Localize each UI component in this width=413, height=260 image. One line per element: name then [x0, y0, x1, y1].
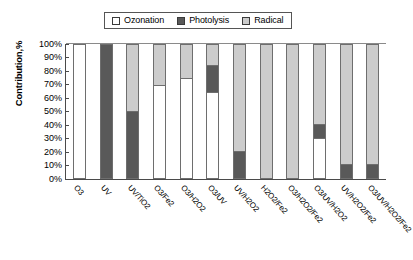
- chart-legend: Ozonation Photolysis Radical: [104, 12, 292, 29]
- bar-o3-uv[interactable]: [206, 44, 219, 179]
- legend-item-ozonation: Ozonation: [112, 16, 164, 25]
- bar-slot: [146, 44, 173, 179]
- bar-segment-radical: [287, 45, 298, 178]
- bar-segment-photolysis: [314, 125, 325, 139]
- bar-segment-ozonation: [314, 139, 325, 178]
- bar-segment-ozonation: [181, 79, 192, 178]
- bar-o3-h2o2[interactable]: [180, 44, 193, 179]
- plot-area: 100%90%80%70%60%50%40%30%20%10%0%: [65, 44, 386, 180]
- y-axis-tick-label: 100%: [39, 40, 66, 49]
- bar-segment-ozonation: [154, 86, 165, 178]
- bar-uv-tio2[interactable]: [126, 44, 139, 179]
- y-axis-tick-label: 0%: [49, 175, 66, 184]
- y-axis-tick-label: 80%: [44, 67, 66, 76]
- x-axis-labels: O3UVUV/TiO2O3/Fe2O3/H2O2O3/UVUV/H2O2H2O2…: [65, 182, 385, 258]
- x-axis-label-slot: O3/Fe2: [145, 182, 172, 258]
- bar-segment-radical: [341, 45, 352, 165]
- bar-series-container: [66, 44, 386, 179]
- bar-segment-photolysis: [127, 112, 138, 178]
- bar-slot: [93, 44, 120, 179]
- bar-o3-fe2[interactable]: [153, 44, 166, 179]
- bar-h2o2-fe2[interactable]: [260, 44, 273, 179]
- legend-label-ozonation: Ozonation: [124, 16, 164, 25]
- x-axis-label-slot: O3/UV/H2O2: [305, 182, 332, 258]
- bar-segment-radical: [314, 45, 325, 125]
- legend-item-photolysis: Photolysis: [177, 16, 229, 25]
- bar-segment-ozonation: [74, 45, 85, 178]
- bar-segment-photolysis: [341, 165, 352, 178]
- legend-swatch-radical: [242, 17, 250, 25]
- bar-slot: [333, 44, 360, 179]
- y-axis-tick-label: 40%: [44, 121, 66, 130]
- bar-slot: [253, 44, 280, 179]
- bar-o3-h2o2-fe2[interactable]: [286, 44, 299, 179]
- bar-uv[interactable]: [100, 44, 113, 179]
- bar-slot: [119, 44, 146, 179]
- bar-slot: [359, 44, 386, 179]
- bar-segment-radical: [367, 45, 378, 165]
- legend-swatch-ozonation: [112, 17, 120, 25]
- y-axis-tick-label: 70%: [44, 80, 66, 89]
- y-axis-tick-label: 10%: [44, 161, 66, 170]
- bar-uv-h2o2-fe2[interactable]: [340, 44, 353, 179]
- bar-o3[interactable]: [73, 44, 86, 179]
- y-axis-tick-label: 50%: [44, 107, 66, 116]
- bar-slot: [306, 44, 333, 179]
- y-axis-title: Contribution,%: [13, 14, 24, 134]
- x-axis-label-slot: O3/UV/H2O2/Fe2: [358, 182, 385, 258]
- bar-segment-ozonation: [207, 93, 218, 178]
- x-axis-label-slot: O3/UV: [198, 182, 225, 258]
- y-axis-tick-label: 30%: [44, 134, 66, 143]
- legend-label-photolysis: Photolysis: [189, 16, 229, 25]
- bar-segment-photolysis: [101, 45, 112, 178]
- bar-slot: [279, 44, 306, 179]
- x-axis-label: O3/UV/H2O2/Fe2: [366, 184, 412, 234]
- bar-o3-uv-h2o2-fe2[interactable]: [366, 44, 379, 179]
- bar-segment-radical: [181, 45, 192, 79]
- x-axis-label-slot: O3/H2O2/Fe2: [278, 182, 305, 258]
- x-axis-label: O3: [72, 184, 85, 197]
- x-axis-label: UV: [99, 184, 112, 197]
- bar-slot: [226, 44, 253, 179]
- x-axis-label-slot: UV: [92, 182, 119, 258]
- x-axis-label: O3/UV: [206, 184, 227, 206]
- x-axis-label-slot: H2O2/Fe2: [252, 182, 279, 258]
- bar-slot: [173, 44, 200, 179]
- legend-label-radical: Radical: [254, 16, 283, 25]
- x-axis-label-slot: O3: [65, 182, 92, 258]
- bar-segment-radical: [154, 45, 165, 86]
- legend-swatch-photolysis: [177, 17, 185, 25]
- x-axis-label-slot: UV/TiO2: [118, 182, 145, 258]
- y-axis-tick-label: 60%: [44, 94, 66, 103]
- legend-item-radical: Radical: [242, 16, 283, 25]
- bar-segment-radical: [261, 45, 272, 178]
- bar-uv-h2o2[interactable]: [233, 44, 246, 179]
- bar-segment-radical: [207, 45, 218, 66]
- bar-slot: [66, 44, 93, 179]
- x-axis-label-slot: O3/H2O2: [172, 182, 199, 258]
- bar-segment-radical: [234, 45, 245, 152]
- y-axis-tick-label: 90%: [44, 53, 66, 62]
- bar-segment-radical: [127, 45, 138, 112]
- x-axis-label-slot: UV/H2O2: [225, 182, 252, 258]
- y-axis-tick-label: 20%: [44, 148, 66, 157]
- bar-segment-photolysis: [234, 152, 245, 178]
- bar-segment-photolysis: [207, 66, 218, 93]
- bar-slot: [199, 44, 226, 179]
- bar-o3-uv-h2o2[interactable]: [313, 44, 326, 179]
- x-axis-label-slot: UV/H2O2/Fe2: [332, 182, 359, 258]
- bar-segment-photolysis: [367, 165, 378, 178]
